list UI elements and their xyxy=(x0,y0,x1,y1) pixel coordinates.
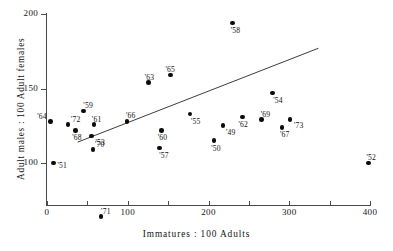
scatter-plot-figure: 1001502000100200300400 '64'72'68'59'61'5… xyxy=(0,0,393,251)
data-point-label: '68 xyxy=(72,133,82,142)
data-point-label: '72 xyxy=(71,115,81,124)
data-point-label: '55 xyxy=(191,117,201,126)
data-point xyxy=(157,146,162,151)
data-point xyxy=(240,115,245,120)
data-point-label: '73 xyxy=(294,121,304,130)
data-point xyxy=(73,128,78,133)
data-point-label: '61 xyxy=(92,115,102,124)
data-point-label: '60 xyxy=(158,133,168,142)
data-point xyxy=(66,122,71,127)
data-point-label: '51 xyxy=(57,161,67,170)
data-point-label: '59 xyxy=(83,101,93,110)
data-point-label: '64 xyxy=(37,112,47,121)
data-point xyxy=(159,128,164,133)
data-point-label: '62 xyxy=(238,120,248,129)
data-point-label: '49 xyxy=(226,128,236,137)
data-point xyxy=(280,125,285,130)
data-point-label: '69 xyxy=(261,110,271,119)
data-point-label: '63 xyxy=(145,73,155,82)
data-point-label: '58 xyxy=(231,26,241,35)
data-point-label: '54 xyxy=(273,96,283,105)
data-point-label: '66 xyxy=(126,111,136,120)
data-point xyxy=(51,161,56,166)
data-point xyxy=(270,91,275,96)
data-point-label: '70 xyxy=(95,140,105,149)
data-point-label: '50 xyxy=(211,144,221,153)
data-point-label: '57 xyxy=(159,151,169,160)
data-point-label: '52 xyxy=(366,153,376,162)
data-point-label: '71 xyxy=(101,207,111,216)
data-point xyxy=(48,119,53,124)
x-axis-title: Immatures : 100 Adults xyxy=(0,229,393,239)
plot-area: 1001502000100200300400 '64'72'68'59'61'5… xyxy=(0,0,393,251)
y-axis-title: Adult males : 100 Adult females xyxy=(16,38,26,180)
data-point-label: '67 xyxy=(280,130,290,139)
data-point-label: '65 xyxy=(166,65,176,74)
